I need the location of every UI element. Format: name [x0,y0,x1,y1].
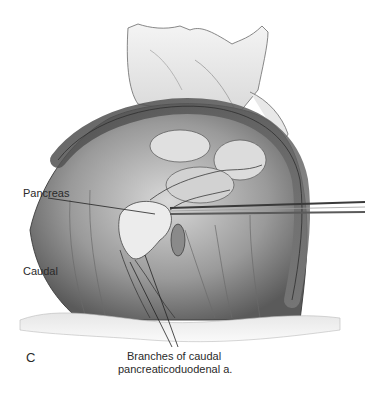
bowel-and-mesentery [30,104,307,320]
label-caudal: Caudal [23,265,58,278]
label-branches-line2: pancreaticoduodenal a. [118,363,230,376]
surgical-illustration: Pancreas Caudal C Branches of caudal pan… [0,0,384,394]
panel-letter: C [26,350,35,365]
label-branches: Branches of caudal pancreaticoduodenal a… [118,350,230,376]
label-branches-line1: Branches of caudal [118,350,230,363]
label-pancreas: Pancreas [23,187,69,200]
